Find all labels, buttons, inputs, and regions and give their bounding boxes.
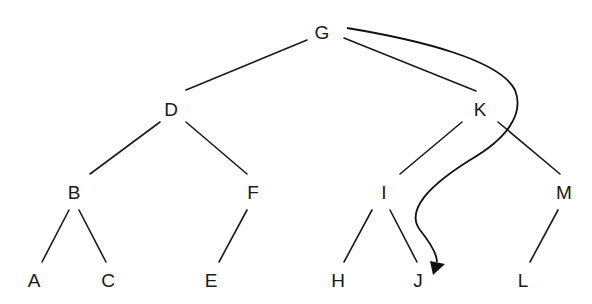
node-M: M	[556, 182, 572, 203]
tree-diagram: G D K B F I M A C E H J L	[0, 0, 592, 304]
node-F: F	[247, 182, 259, 203]
node-A: A	[28, 270, 41, 291]
node-L: L	[518, 270, 529, 291]
node-E: E	[205, 270, 218, 291]
edge-G-K	[344, 38, 476, 91]
node-B: B	[68, 182, 81, 203]
arrow-curve	[347, 28, 518, 262]
edge-B-A	[42, 210, 69, 262]
edge-K-I	[400, 122, 462, 174]
arrowhead-icon	[430, 261, 445, 275]
edge-I-H	[344, 210, 372, 262]
node-G: G	[315, 22, 330, 43]
edge-M-L	[530, 210, 558, 262]
edge-D-F	[186, 122, 247, 174]
node-K: K	[474, 99, 487, 120]
edge-B-C	[79, 210, 106, 262]
node-J: J	[413, 270, 423, 291]
edge-D-B	[90, 122, 160, 174]
node-H: H	[331, 270, 345, 291]
node-I: I	[381, 182, 386, 203]
edge-F-E	[219, 210, 247, 262]
edge-I-J	[390, 210, 417, 262]
edges-layer	[42, 38, 560, 262]
edge-G-D	[186, 40, 307, 90]
node-D: D	[164, 99, 178, 120]
traversal-arrow	[347, 28, 518, 275]
nodes-layer: G D K B F I M A C E H J L	[28, 22, 572, 291]
node-C: C	[101, 270, 115, 291]
